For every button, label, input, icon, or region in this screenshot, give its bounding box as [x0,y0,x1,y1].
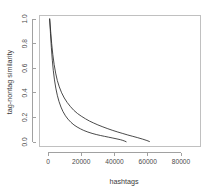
y-tick-label: 1.0 [21,14,28,23]
x-tick-label: 0 [46,158,50,165]
y-tick-label: 0.2 [21,112,28,121]
y-axis-title: tag-nontag similarity [5,49,14,114]
x-tick-label: 20000 [72,158,91,165]
y-tick-label: 0.0 [21,137,28,146]
y-tick-label: 0.8 [21,39,28,48]
y-tick-label: 0.6 [21,63,28,72]
y-tick-label: 0.4 [21,88,28,97]
chart-container: 0.00.20.40.60.81.0 020000400006000080000… [0,0,214,196]
x-axis-title: hashtags [109,177,139,186]
x-tick-label: 60000 [139,158,158,165]
x-tick-label: 80000 [172,158,191,165]
line-chart: 0.00.20.40.60.81.0 020000400006000080000… [0,0,214,196]
x-tick-label: 40000 [105,158,124,165]
